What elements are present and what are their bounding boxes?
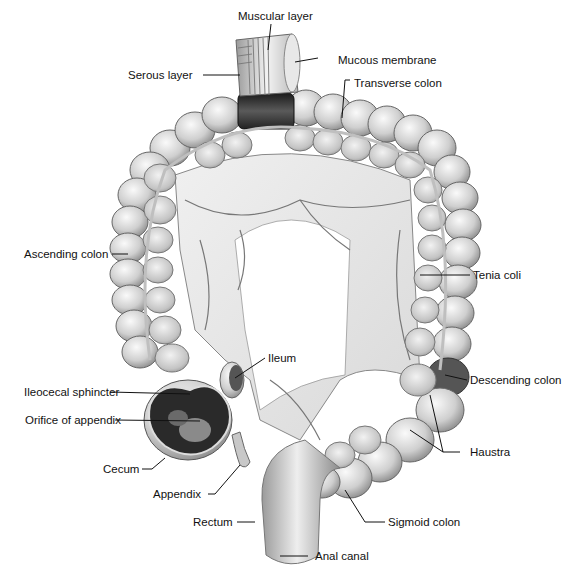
cecum-shape	[144, 362, 250, 467]
rectum-shape	[262, 440, 340, 564]
label-haustra: Haustra	[470, 446, 510, 459]
label-orifice-of-appendix: Orifice of appendix	[25, 414, 121, 427]
label-descending-colon: Descending colon	[470, 374, 561, 387]
colon-anatomy-figure: Muscular layer Mucous membrane Serous la…	[0, 0, 581, 584]
label-ileum: Ileum	[268, 352, 296, 365]
label-cecum: Cecum	[103, 463, 139, 476]
label-muscular-layer: Muscular layer	[238, 10, 313, 23]
label-mucous-membrane: Mucous membrane	[338, 54, 436, 67]
label-transverse-colon: Transverse colon	[354, 77, 442, 90]
label-sigmoid-colon: Sigmoid colon	[388, 516, 460, 529]
label-ileocecal-sphincter: Ileocecal sphincter	[24, 386, 119, 399]
label-appendix: Appendix	[153, 488, 201, 501]
colon-illustration	[0, 0, 581, 584]
appendix-shape	[232, 432, 250, 467]
label-serous-layer: Serous layer	[128, 69, 193, 82]
label-ascending-colon: Ascending colon	[24, 248, 108, 261]
label-anal-canal: Anal canal	[315, 550, 369, 563]
ascending-colon-shape	[110, 130, 190, 372]
label-rectum: Rectum	[193, 516, 233, 529]
label-tenia-coli: Tenia coli	[473, 269, 521, 282]
